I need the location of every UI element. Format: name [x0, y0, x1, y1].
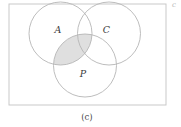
- set-label-p: P: [79, 68, 87, 79]
- venn-diagram-canvas: A C P c (c): [0, 0, 181, 127]
- set-label-a: A: [54, 24, 62, 35]
- venn-diagram-figure: A C P c (c): [0, 0, 181, 127]
- figure-caption: (c): [81, 112, 92, 122]
- set-label-c: C: [103, 24, 111, 35]
- corner-mark-label: c: [172, 1, 176, 9]
